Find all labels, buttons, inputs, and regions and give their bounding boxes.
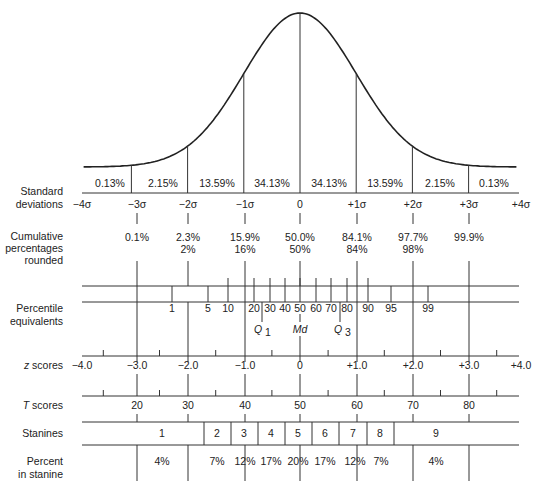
cum-rounded: 50% [289,243,310,255]
sd-tick: −1σ [236,198,255,210]
stanine: 5 [295,427,301,439]
percentile-tick-label: 20 [248,302,260,314]
t-connectors [137,374,469,396]
sd-tick: 0 [297,198,303,210]
row-label-sd-line1: Standard [20,185,63,197]
area-pct: 34.13% [311,177,347,189]
percentile-tick-label: 40 [279,302,291,314]
z-tick: −3.0 [127,359,148,371]
cum-exact: 2.3% [176,231,200,243]
percentile-tick-label: 80 [341,302,353,314]
t-to-stanine-connectors [137,414,469,422]
percentile-tick-label: 30 [264,302,276,314]
t-tick: 70 [407,399,419,411]
area-pct: 2.15% [148,177,178,189]
sd-connectors [137,213,469,224]
sd-tick: +2σ [404,198,423,210]
z-tick: 0 [297,359,303,371]
stanine-pct: 17% [260,455,281,467]
cum-rounded: 98% [402,243,423,255]
percentile-tick-label: 90 [362,302,374,314]
area-percentages: 0.13% 2.15% 13.59% 34.13% 34.13% 13.59% … [95,177,509,189]
stanine: 3 [241,427,247,439]
cum-exact: 50.0% [285,231,315,243]
stanine: 4 [268,427,274,439]
median-label: Md [293,323,309,335]
row-label-cum-line1: Cumulative [10,230,63,242]
stanine-pct: 12% [344,455,365,467]
row-label-percentile-line1: Percentile [16,302,63,314]
t-tick: 20 [131,399,143,411]
q1-subscript: 1 [265,326,271,338]
percentile-tick-label: 1 [169,302,175,314]
sd-tick: −4σ [73,198,92,210]
stanine-pct: 4% [154,455,169,467]
stanine-pct: 20% [287,455,308,467]
t-tick: 40 [239,399,251,411]
z-tick: +3.0 [459,359,480,371]
sd-tick: +3σ [460,198,479,210]
stanine: 2 [214,427,220,439]
sd-tick: +4σ [512,198,531,210]
area-pct: 0.13% [479,177,509,189]
cum-exact: 0.1% [125,231,149,243]
stanine-pct: 7% [373,455,388,467]
z-tick: +1.0 [347,359,368,371]
t-ticks: 20 30 40 50 60 70 80 [131,399,475,411]
cumulative-values: 0.1% 2.3% 15.9% 50.0% 84.1% 97.7% 99.9% … [125,231,484,255]
stanine: 8 [377,427,383,439]
sd-dividers [131,13,468,193]
t-tick: 50 [294,399,306,411]
sd-ticks: −4σ −3σ −2σ −1σ 0 +1σ +2σ +3σ +4σ [73,198,531,210]
row-label-cum-line3: rounded [24,254,63,266]
percentile-tick-label: 50 [294,302,306,314]
t-tick: 30 [182,399,194,411]
cum-rounded: 84% [346,243,367,255]
row-label-cum-line2: percentages [5,242,63,254]
row-label-t: T scores [23,399,63,411]
stanine-pct: 17% [314,455,335,467]
row-label-sd-line2: deviations [16,198,63,210]
row-label-pct-stanine-line2: in stanine [18,468,63,480]
t-tick: 80 [463,399,475,411]
z-tick: +2.0 [403,359,424,371]
cum-exact: 84.1% [342,231,372,243]
cum-exact: 15.9% [230,231,260,243]
cum-exact: 97.7% [398,231,428,243]
t-tick: 60 [351,399,363,411]
percentile-tick-label: 5 [205,302,211,314]
row-label-pct-stanine-line1: Percent [27,455,63,467]
percent-in-stanine-values: 4% 7% 12% 17% 20% 17% 12% 7% 4% [154,455,443,467]
percentile-labels: 1 5 10 20 30 40 50 60 70 80 90 95 99 [169,302,434,314]
percentile-tick-label: 10 [222,302,234,314]
normal-curve-diagram: 0.13% 2.15% 13.59% 34.13% 34.13% 13.59% … [0,0,541,498]
sd-tick: +1σ [348,198,367,210]
cum-exact: 99.9% [454,231,484,243]
area-pct: 13.59% [199,177,235,189]
z-tick: −4.0 [72,359,93,371]
z-tick: −1.0 [235,359,256,371]
row-label-percentile-line2: equivalents [10,315,63,327]
row-label-stanines: Stanines [22,427,63,439]
stanine: 7 [350,427,356,439]
area-pct: 0.13% [95,177,125,189]
stanine-pct: 7% [209,455,224,467]
percentile-tick-label: 95 [385,302,397,314]
q3-label: Q [334,323,342,335]
percentile-tick-label: 60 [310,302,322,314]
z-ticks: −4.0 −3.0 −2.0 −1.0 0 +1.0 +2.0 +3.0 +4.… [72,359,532,371]
area-pct: 13.59% [367,177,403,189]
stanine: 1 [159,427,165,439]
percentile-tick-label: 99 [422,302,434,314]
row-label-z: z scores [23,359,63,371]
stanine: 6 [322,427,328,439]
area-pct: 2.15% [425,177,455,189]
sd-tick: −3σ [128,198,147,210]
stanine-pct: 4% [428,455,443,467]
stanine: 9 [433,427,439,439]
stanine-values: 1 2 3 4 5 6 7 8 9 [159,427,439,439]
sd-tick: −2σ [179,198,198,210]
percentile-tick-label: 70 [325,302,337,314]
z-tick: +4.0 [511,359,532,371]
percentile-ticks [172,278,428,302]
